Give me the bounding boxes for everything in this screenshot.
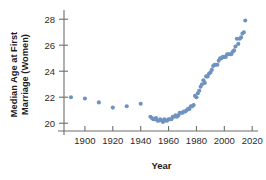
data-point xyxy=(111,106,115,110)
data-points xyxy=(69,18,247,124)
data-point xyxy=(97,100,101,104)
data-point xyxy=(139,102,143,106)
data-point xyxy=(197,89,201,93)
data-point xyxy=(203,81,207,85)
data-point xyxy=(210,68,214,72)
y-tick-label: 28 xyxy=(44,14,55,25)
data-point xyxy=(232,48,236,52)
y-axis-title: Median Age at FirstMarriage (Women) xyxy=(9,32,30,117)
y-tick-label: 24 xyxy=(44,66,55,77)
data-point xyxy=(242,30,246,34)
x-tick-label: 1940 xyxy=(130,135,151,146)
x-tick-label: 1960 xyxy=(158,135,179,146)
data-point xyxy=(192,103,196,107)
data-point xyxy=(239,35,243,39)
y-axis-title-line: Median Age at First xyxy=(9,32,19,117)
x-axis-title: Year xyxy=(151,160,171,171)
data-point xyxy=(243,18,247,22)
y-tick-label: 22 xyxy=(44,92,55,103)
x-tick-label: 2020 xyxy=(242,135,263,146)
data-point xyxy=(215,63,219,67)
x-tick-label: 1900 xyxy=(74,135,95,146)
x-tick-label: 1980 xyxy=(186,135,207,146)
y-tick-label: 20 xyxy=(44,118,55,129)
x-tick-label: 2000 xyxy=(214,135,235,146)
chart-container: 19001920194019601980200020202022242628Ye… xyxy=(0,0,266,180)
data-point xyxy=(125,104,129,108)
scatter-plot: 19001920194019601980200020202022242628Ye… xyxy=(0,0,266,180)
y-tick-label: 26 xyxy=(44,40,55,51)
data-point xyxy=(194,95,198,99)
data-point xyxy=(83,96,87,100)
y-axis-title-line: Marriage (Women) xyxy=(20,34,30,115)
data-point xyxy=(236,42,240,46)
data-point xyxy=(69,95,73,99)
x-tick-label: 1920 xyxy=(102,135,123,146)
